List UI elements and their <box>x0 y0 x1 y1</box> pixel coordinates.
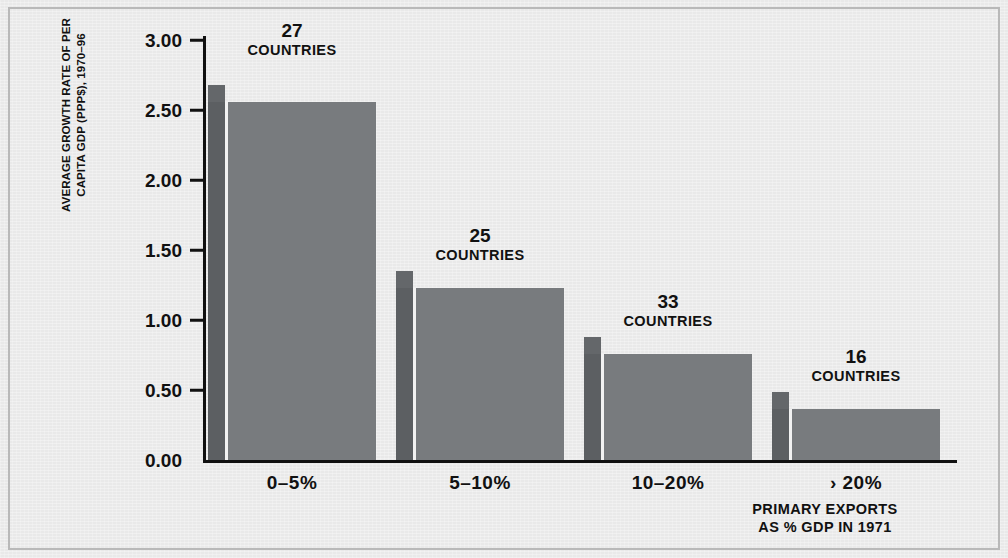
x-axis-line <box>203 460 957 463</box>
y-tick-label-2-50: 2.50 <box>112 101 182 120</box>
x-tick-label-5-10pct: 5–10% <box>396 472 564 494</box>
bar-top-face <box>584 337 601 354</box>
y-tick-mark-2-50 <box>190 109 205 112</box>
bar-top-face <box>396 271 413 288</box>
bar-side-face <box>584 354 601 460</box>
bar-count-0: 27 <box>208 20 376 42</box>
chart-figure: AVERAGE GROWTH RATE OF PER CAPITA GDP (P… <box>0 0 1008 558</box>
bar-count-2: 33 <box>584 291 752 313</box>
bar-count-3: 16 <box>772 346 940 368</box>
bar-unit-2: COUNTRIES <box>584 313 752 330</box>
x-axis-caption: PRIMARY EXPORTS AS % GDP IN 1971 <box>700 500 950 536</box>
y-tick-mark-1-50 <box>190 249 205 252</box>
bar-top-face <box>772 392 789 409</box>
y-tick-mark-0-50 <box>190 389 205 392</box>
bar-value-label-0: 27 COUNTRIES <box>208 20 376 60</box>
bar-group-0-5pct[interactable] <box>208 0 376 460</box>
plot-area: AVERAGE GROWTH RATE OF PER CAPITA GDP (P… <box>0 0 1008 558</box>
y-tick-mark-3-00 <box>190 39 205 42</box>
bar-group-over-20pct[interactable] <box>772 0 940 460</box>
bar-top-face <box>208 85 225 102</box>
x-tick-label-over-20pct: › 20% <box>772 472 940 494</box>
bar-front-face <box>601 354 752 460</box>
y-tick-label-1-00: 1.00 <box>112 311 182 330</box>
bar-unit-0: COUNTRIES <box>208 42 376 59</box>
y-tick-label-2-00: 2.00 <box>112 171 182 190</box>
bar-front-face <box>413 288 564 460</box>
y-tick-label-1-50: 1.50 <box>112 241 182 260</box>
y-tick-mark-2-00 <box>190 179 205 182</box>
y-axis-title: AVERAGE GROWTH RATE OF PER CAPITA GDP (P… <box>59 0 89 265</box>
x-tick-label-10-20pct: 10–20% <box>584 472 752 494</box>
y-tick-label-0-50: 0.50 <box>112 381 182 400</box>
bar-side-face <box>772 409 789 460</box>
bar-front-face <box>225 102 376 460</box>
y-tick-mark-1-00 <box>190 319 205 322</box>
bar-value-label-1: 25 COUNTRIES <box>396 225 564 265</box>
bar-side-face <box>396 288 413 460</box>
y-tick-label-0-00: 0.00 <box>112 451 182 470</box>
bar-group-10-20pct[interactable] <box>584 0 752 460</box>
bar-unit-1: COUNTRIES <box>396 247 564 264</box>
bar-side-face <box>208 102 225 460</box>
bar-value-label-2: 33 COUNTRIES <box>584 291 752 331</box>
x-tick-label-0-5pct: 0–5% <box>208 472 376 494</box>
bar-front-face <box>789 409 940 460</box>
bar-unit-3: COUNTRIES <box>772 368 940 385</box>
bar-count-1: 25 <box>396 225 564 247</box>
y-tick-label-3-00: 3.00 <box>112 31 182 50</box>
bar-value-label-3: 16 COUNTRIES <box>772 346 940 386</box>
